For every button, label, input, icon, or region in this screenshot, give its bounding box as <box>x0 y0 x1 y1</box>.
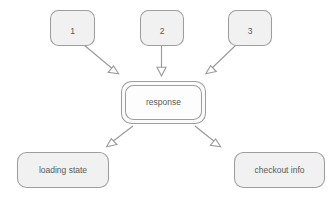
edge-input3-to-response <box>206 45 236 74</box>
edge-response-to-loading-state <box>107 126 134 147</box>
edge-input2-to-response <box>157 46 166 76</box>
node-input-1[interactable]: 1 <box>51 11 95 46</box>
edge-response-to-checkout-info <box>195 126 221 147</box>
node-checkout-info[interactable]: checkout info <box>235 153 325 188</box>
node-input-2[interactable]: 2 <box>141 11 184 46</box>
arrowhead-input3 <box>206 66 217 74</box>
node-checkout-info-label: checkout info <box>254 165 304 175</box>
arrowhead-input2 <box>157 67 166 76</box>
edge-line-input1 <box>84 45 114 70</box>
edge-line-checkout-info <box>195 126 215 142</box>
node-input-3[interactable]: 3 <box>229 11 272 46</box>
node-input-3-label: 3 <box>248 26 253 36</box>
node-loading-state[interactable]: loading state <box>18 153 109 188</box>
edge-line-loading-state <box>112 126 133 142</box>
flow-diagram-canvas: 1 2 3 response loading state checkout in… <box>0 0 330 199</box>
node-response[interactable]: response <box>122 82 206 124</box>
node-loading-state-label: loading state <box>39 165 87 175</box>
node-input-2-label: 2 <box>160 26 165 36</box>
node-response-label: response <box>146 97 181 107</box>
diagram-svg: 1 2 3 response loading state checkout in… <box>0 0 330 199</box>
edge-input1-to-response <box>84 45 119 74</box>
edge-line-input3 <box>211 45 236 69</box>
node-input-1-label: 1 <box>70 26 75 36</box>
